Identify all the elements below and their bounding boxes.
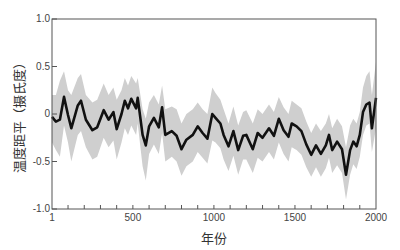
x-tick-label: 1 [49, 212, 55, 223]
x-axis-title: 年份 [201, 231, 227, 246]
y-tick-label: -0.5 [33, 156, 51, 167]
y-tick-label: 1.0 [36, 13, 50, 24]
x-tick-label: 1500 [284, 212, 307, 223]
y-tick-label: 0 [44, 108, 50, 119]
x-tick-label: 500 [125, 212, 142, 223]
uncertainty-band [52, 62, 376, 200]
y-axis-ticks: -1.0-0.500.51.0 [33, 13, 57, 214]
temperature-anomaly-chart: 1500100015002000 -1.0-0.500.51.0 年份 温度距平… [0, 0, 400, 250]
y-axis-title: 温度距平（摄氏度） [12, 56, 27, 173]
y-tick-label: 0.5 [36, 61, 50, 72]
x-axis-ticks: 1500100015002000 [49, 205, 387, 223]
x-tick-label: 1000 [203, 212, 226, 223]
plot-area [52, 62, 376, 200]
y-tick-label: -1.0 [33, 203, 51, 214]
x-tick-label: 2000 [365, 212, 388, 223]
